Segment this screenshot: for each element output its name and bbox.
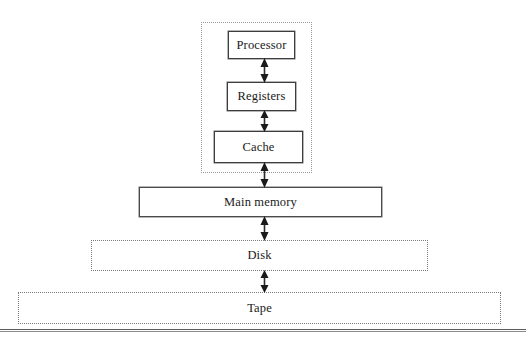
arrow-processor-registers [258, 58, 271, 83]
node-main-memory[interactable]: Main memory [139, 187, 382, 217]
node-processor-label: Processor [237, 39, 287, 52]
diagram-canvas: Processor Registers Cache Main memory Di… [0, 0, 526, 348]
node-disk[interactable]: Disk [91, 240, 428, 271]
bottom-rule-line-lower [0, 331, 526, 332]
node-disk-label: Disk [247, 249, 271, 262]
node-main-memory-label: Main memory [224, 196, 297, 209]
arrow-registers-cache [258, 110, 271, 132]
node-registers[interactable]: Registers [227, 82, 296, 111]
node-tape-label: Tape [247, 302, 272, 315]
node-processor[interactable]: Processor [228, 31, 295, 59]
node-cache-label: Cache [243, 141, 275, 154]
node-registers-label: Registers [238, 90, 286, 103]
bottom-rule-line-upper [0, 329, 526, 330]
arrow-disk-tape [258, 270, 271, 293]
bottom-rule-divider [0, 329, 526, 333]
node-tape[interactable]: Tape [18, 292, 501, 324]
arrow-cache-main-memory [258, 162, 271, 188]
node-cache[interactable]: Cache [214, 131, 303, 163]
arrow-main-memory-disk [258, 216, 271, 241]
